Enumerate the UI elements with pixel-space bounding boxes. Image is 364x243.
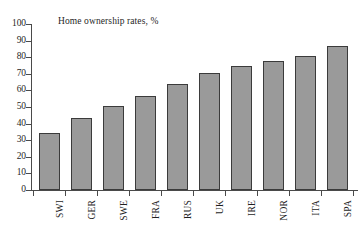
y-axis-tick bbox=[26, 107, 31, 108]
bar bbox=[167, 84, 188, 190]
x-axis-tick bbox=[257, 191, 258, 196]
x-axis-tick-label: SWI bbox=[55, 200, 65, 242]
bar bbox=[231, 66, 252, 191]
x-axis-tick bbox=[161, 191, 162, 196]
x-axis-tick bbox=[193, 191, 194, 196]
x-axis-line bbox=[31, 190, 358, 191]
x-axis-tick-label: IRE bbox=[247, 200, 257, 242]
x-axis-tick-label: NOR bbox=[279, 200, 289, 242]
x-axis-tick-label: GER bbox=[87, 200, 97, 242]
bar bbox=[135, 96, 156, 190]
y-axis-tick-label: 0 bbox=[0, 185, 26, 195]
y-axis-tick-label: 70 bbox=[0, 69, 26, 79]
x-axis-tick-label: ITA bbox=[311, 200, 321, 242]
x-axis-tick bbox=[225, 191, 226, 196]
y-axis-tick bbox=[26, 74, 31, 75]
bar-chart: Home ownership rates, % 1009080706050403… bbox=[0, 0, 364, 243]
y-axis-tick bbox=[26, 57, 31, 58]
bar bbox=[71, 118, 92, 190]
bar bbox=[295, 56, 316, 190]
x-axis-tick bbox=[353, 191, 354, 196]
x-axis-tick-label: SWE bbox=[119, 200, 129, 242]
x-axis-tick bbox=[289, 191, 290, 196]
y-axis-tick bbox=[26, 140, 31, 141]
y-axis-tick bbox=[26, 41, 31, 42]
y-axis-tick-label: 20 bbox=[0, 152, 26, 162]
bar bbox=[39, 133, 60, 190]
bar bbox=[103, 106, 124, 190]
y-axis-tick bbox=[26, 190, 31, 191]
y-axis-tick bbox=[26, 173, 31, 174]
bar bbox=[327, 46, 348, 190]
x-axis-tick bbox=[33, 191, 34, 196]
y-axis-tick bbox=[26, 124, 31, 125]
bar bbox=[263, 61, 284, 190]
x-axis-tick bbox=[65, 191, 66, 196]
y-axis-tick-label: 30 bbox=[0, 135, 26, 145]
x-axis-tick bbox=[97, 191, 98, 196]
x-axis-tick-label: RUS bbox=[183, 200, 193, 242]
bar bbox=[199, 73, 220, 190]
y-axis-tick-label: 90 bbox=[0, 36, 26, 46]
y-axis-tick bbox=[26, 90, 31, 91]
y-axis-tick-label: 40 bbox=[0, 119, 26, 129]
x-axis-tick-label: FRA bbox=[151, 200, 161, 242]
y-axis-tick-label: 80 bbox=[0, 52, 26, 62]
y-axis-tick-label: 60 bbox=[0, 85, 26, 95]
y-axis-line bbox=[31, 24, 32, 191]
y-axis-tick-label: 50 bbox=[0, 102, 26, 112]
y-axis-tick bbox=[26, 157, 31, 158]
x-axis-tick bbox=[129, 191, 130, 196]
x-axis-tick-label: UK bbox=[215, 200, 225, 242]
y-axis-tick bbox=[26, 24, 31, 25]
chart-title: Home ownership rates, % bbox=[58, 16, 158, 27]
x-axis-tick-label: SPA bbox=[343, 200, 353, 242]
y-axis-tick-label: 100 bbox=[0, 19, 26, 29]
x-axis-tick bbox=[321, 191, 322, 196]
y-axis-tick-label: 10 bbox=[0, 168, 26, 178]
